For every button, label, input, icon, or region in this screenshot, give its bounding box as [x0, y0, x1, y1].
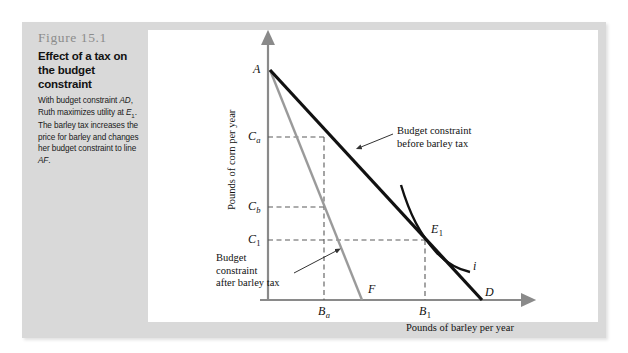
y-tick-ca: Ca: [248, 129, 260, 144]
x-tick-b1-sub: 1: [427, 310, 431, 320]
callout-after-barley-tax: Budget constraint after barley tax: [216, 252, 280, 290]
desc-part-1: With budget constraint: [38, 96, 119, 105]
callout-after-line1: Budget: [216, 252, 280, 265]
y-axis-title: Pounds of corn per year: [226, 110, 237, 210]
y-tick-cb-letter: C: [248, 199, 256, 213]
chart-axes: [260, 43, 523, 300]
budget-line-after-tax: [270, 70, 362, 300]
budget-line-before-tax: [270, 70, 482, 300]
figure-number: Figure 15.1: [38, 30, 146, 46]
callout-after-line2: constraint: [216, 265, 280, 278]
guide-lines: [268, 137, 425, 300]
y-tick-cb: Cb: [248, 199, 260, 214]
figure-panel: Figure 15.1 Effect of a tax on the budge…: [22, 22, 606, 338]
point-label-e1: E1: [431, 222, 443, 237]
figure-title: Effect of a tax on the budget constraint: [38, 49, 146, 91]
x-tick-b1-letter: B: [419, 304, 426, 318]
callout-after-line3: after barley tax: [216, 277, 280, 290]
callout-leader-before-tax: [361, 134, 393, 147]
point-label-e1-sub: 1: [439, 228, 443, 238]
y-tick-c1: C1: [248, 232, 260, 247]
y-tick-ca-letter: C: [248, 129, 256, 143]
figure-caption-block: Figure 15.1 Effect of a tax on the budge…: [38, 30, 146, 167]
point-label-e1-letter: E: [431, 222, 438, 236]
y-tick-ca-sub: a: [256, 135, 260, 145]
point-label-d: D: [485, 285, 494, 300]
desc-emph-af: AF: [38, 156, 48, 165]
y-tick-cb-sub: b: [256, 205, 260, 215]
desc-emph-ad: AD: [119, 96, 130, 105]
desc-part-4: .: [48, 156, 50, 165]
x-tick-b1: B1: [419, 304, 431, 319]
figure-description: With budget constraint AD, Ruth maximize…: [38, 95, 146, 167]
y-tick-c1-sub: 1: [256, 238, 260, 248]
x-tick-ba: Ba: [318, 304, 330, 319]
point-label-a: A: [253, 62, 260, 77]
x-axis-title: Pounds of barley per year: [406, 322, 514, 333]
callout-before-line2: before barley tax: [397, 138, 471, 151]
x-tick-ba-sub: a: [326, 310, 330, 320]
callout-leader-after-tax: [294, 251, 336, 273]
y-tick-c1-letter: C: [248, 232, 256, 246]
x-tick-ba-letter: B: [318, 304, 325, 318]
point-label-i: i: [473, 259, 476, 274]
callout-before-line1: Budget constraint: [397, 125, 471, 138]
chart-plot-panel: Pounds of corn per year Pounds of barley…: [148, 30, 598, 322]
point-label-f: F: [368, 282, 375, 297]
callout-before-barley-tax: Budget constraint before barley tax: [397, 125, 471, 150]
